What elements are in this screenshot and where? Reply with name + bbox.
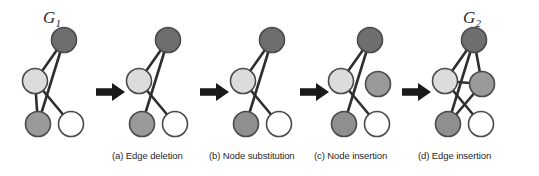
graph-node [470,72,495,97]
right-arrow-icon [200,82,230,102]
arrow-shape [402,83,431,101]
arrow-shape [96,83,125,101]
graph-g1-canvas [14,0,104,150]
graph-node [234,112,259,137]
arrow-4 [402,82,432,106]
graph-after-edge-deletion [118,0,208,150]
arrow-2 [200,82,230,106]
graph-g1 [14,0,104,150]
graph-g2-canvas [424,0,514,150]
right-arrow-icon [402,82,432,102]
graph-node [462,28,487,53]
graph-after-node-substitution [222,0,312,150]
graph-node [260,28,285,53]
graph-node [433,69,458,94]
graph-after-node-substitution-canvas [222,0,312,150]
graph-after-edge-deletion-canvas [118,0,208,150]
graph-node [156,28,181,53]
graph-node [231,69,256,94]
graph-node [59,112,84,137]
graph-node [127,69,152,94]
arrow-1 [96,82,126,106]
graph-node [52,28,77,53]
graph-node [366,72,391,97]
caption-d: (d) Edge insertion [418,150,491,161]
graph-node [436,112,461,137]
graph-g2 [424,0,514,150]
graph-node [163,112,188,137]
graph-node [469,112,494,137]
caption-b: (b) Node substitution [209,150,295,161]
arrow-shape [200,83,229,101]
caption-a: (a) Edge deletion [112,150,183,161]
caption-row: (a) Edge deletion(b) Node substitution(c… [0,150,539,176]
graph-after-node-insertion [320,0,410,150]
graph-after-node-insertion-canvas [320,0,410,150]
graph-node [267,112,292,137]
right-arrow-icon [300,82,330,102]
graph-node [365,112,390,137]
graph-node [329,69,354,94]
caption-c: (c) Node insertion [314,150,387,161]
arrow-shape [300,83,329,101]
graph-node [26,112,51,137]
right-arrow-icon [96,82,126,102]
arrow-3 [300,82,330,106]
graph-node [332,112,357,137]
graph-edit-distance-figure: G1 G2 (a) Edge deletion(b) Node substitu… [0,0,539,176]
graph-node [358,28,383,53]
graph-node [130,112,155,137]
graph-node [23,69,48,94]
